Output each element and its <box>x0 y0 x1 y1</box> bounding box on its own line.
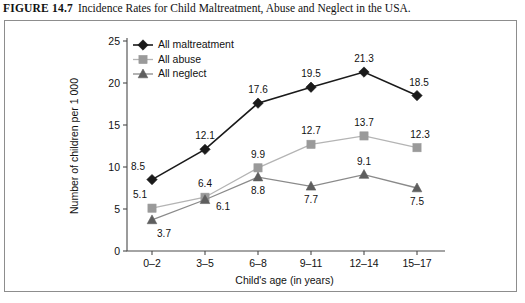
x-tick-label: 15–17 <box>402 257 431 269</box>
data-point <box>147 174 157 184</box>
legend-item-all-neglect: All neglect <box>133 67 207 79</box>
data-point <box>254 164 262 172</box>
y-tick-label: 10 <box>108 161 120 173</box>
data-label: 7.7 <box>304 194 318 205</box>
legend-label: All neglect <box>158 67 207 79</box>
data-label: 6.1 <box>216 201 230 212</box>
data-point <box>306 82 316 92</box>
y-axis-title: Number of children per 1 000 <box>68 78 80 214</box>
data-label: 18.5 <box>409 77 429 88</box>
y-tick-label: 0 <box>114 245 120 257</box>
legend-marker <box>139 55 147 63</box>
data-label: 5.1 <box>133 189 147 200</box>
x-tick-label: 9–11 <box>300 257 323 269</box>
series-all-abuse <box>148 132 421 212</box>
series-all-neglect <box>147 170 422 224</box>
legend-item-all-maltreatment: All maltreatment <box>133 38 234 50</box>
data-label: 9.1 <box>357 156 371 167</box>
y-tick-label: 20 <box>108 77 120 89</box>
x-axis-title: Child's age (in years) <box>235 274 333 286</box>
data-point <box>253 172 263 181</box>
data-label: 19.5 <box>301 68 321 79</box>
series-line <box>152 175 417 220</box>
legend-label: All abuse <box>158 53 201 65</box>
y-tick-label: 5 <box>114 203 120 215</box>
series-line <box>152 72 417 180</box>
x-tick-label: 0–2 <box>143 257 161 269</box>
data-point <box>359 67 369 77</box>
legend-item-all-abuse: All abuse <box>133 53 201 65</box>
data-label: 8.5 <box>131 161 145 172</box>
data-label: 8.8 <box>251 185 265 196</box>
data-label: 12.3 <box>410 129 430 140</box>
data-point <box>360 132 368 140</box>
chart-axes: 05101520250–23–56–89–1112–1415–17Child's… <box>68 35 445 286</box>
data-label: 17.6 <box>248 84 268 95</box>
data-label: 9.9 <box>251 149 265 160</box>
data-point <box>413 144 421 152</box>
data-label: 7.5 <box>410 196 424 207</box>
data-label: 21.3 <box>354 53 374 64</box>
data-point <box>148 204 156 212</box>
data-point <box>412 90 422 100</box>
x-tick-label: 12–14 <box>349 257 378 269</box>
incidence-rates-line-chart: 05101520250–23–56–89–1112–1415–17Child's… <box>0 0 525 303</box>
legend-label: All maltreatment <box>158 38 234 50</box>
series-all-maltreatment <box>147 67 422 185</box>
series-line <box>152 136 417 208</box>
data-label: 12.7 <box>301 125 321 136</box>
data-label: 13.7 <box>354 117 374 128</box>
chart-legend: All maltreatmentAll abuseAll neglect <box>133 38 234 79</box>
x-tick-label: 6–8 <box>249 257 267 269</box>
data-label: 3.7 <box>157 228 171 239</box>
data-label: 6.4 <box>198 178 212 189</box>
y-tick-label: 25 <box>108 35 120 47</box>
y-tick-label: 15 <box>108 119 120 131</box>
x-tick-label: 3–5 <box>196 257 214 269</box>
data-label: 12.1 <box>195 130 215 141</box>
chart-series <box>147 67 422 224</box>
data-point <box>307 140 315 148</box>
data-point <box>359 170 369 179</box>
legend-marker <box>138 40 148 50</box>
